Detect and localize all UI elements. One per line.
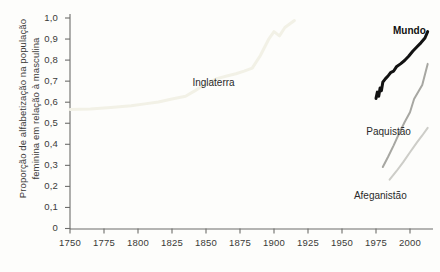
series-label-afeganisto: Afeganistão	[354, 190, 407, 201]
y-tick-label: 0,1	[28, 201, 58, 212]
y-tick-label: 0,6	[28, 96, 58, 107]
y-tick-label: 0,5	[28, 117, 58, 128]
x-tick-label: 2000	[390, 237, 430, 248]
y-tick-label: 0,4	[28, 138, 58, 149]
y-tick-label: 1,0	[28, 12, 58, 23]
data-series-group	[70, 21, 428, 180]
y-tick-label: 0,3	[28, 159, 58, 170]
y-tick-label: 0,9	[28, 33, 58, 44]
y-tick-label: 0,2	[28, 180, 58, 191]
series-line-inglaterra	[70, 21, 294, 110]
y-tick-marks	[65, 18, 70, 229]
series-line-paquisto	[383, 64, 428, 167]
y-tick-label: 0,8	[28, 54, 58, 65]
series-label-inglaterra: Inglaterra	[192, 77, 234, 88]
y-tick-label: 0	[28, 222, 58, 233]
chart-figure: Proporção de alfabetização na população …	[0, 0, 440, 272]
y-tick-label: 0,7	[28, 75, 58, 86]
series-label-mundo: Mundo	[393, 25, 426, 36]
series-label-paquisto: Paquistão	[366, 126, 410, 137]
